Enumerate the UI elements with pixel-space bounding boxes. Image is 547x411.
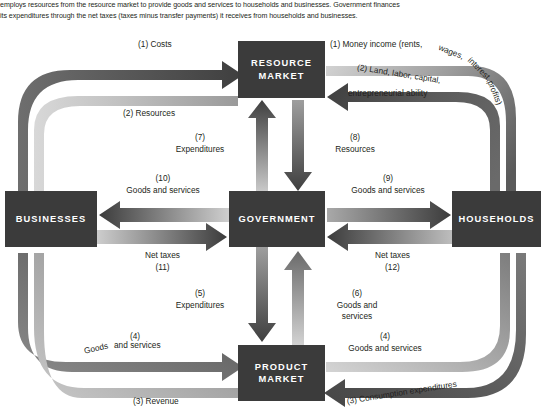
label-1-money-income-part1: (1) Money income (rents, <box>330 39 422 50</box>
label-11-net-taxes: Net taxes <box>115 250 210 261</box>
arrow-8-resources <box>284 100 312 191</box>
resource-market-line1: RESOURCE <box>251 58 312 68</box>
businesses-label: BUSINESSES <box>16 213 86 226</box>
label-2-land-labor-part2: entrepreneurial ability <box>348 88 427 99</box>
arrow-3-revenue <box>34 253 238 398</box>
label-6-number: (6) <box>322 288 392 299</box>
label-6-goods-line2: services <box>312 311 402 322</box>
label-11-number: (11) <box>115 262 210 273</box>
resource-market-line2: MARKET <box>258 71 304 81</box>
arrow-6-goods-and-services <box>284 251 312 345</box>
arrow-12-net-taxes <box>327 223 452 251</box>
households-label: HOUSEHOLDS <box>458 213 534 226</box>
label-4-right-number: (4) <box>350 331 420 342</box>
circular-flow-diagram: RESOURCE MARKET BUSINESSES GOVERNMENT HO… <box>0 22 547 411</box>
node-households[interactable]: HOUSEHOLDS <box>452 191 541 247</box>
node-resource-market[interactable]: RESOURCE MARKET <box>238 41 325 98</box>
product-market-line2: MARKET <box>258 374 304 384</box>
arrow-7-expenditures <box>248 100 276 191</box>
label-10-number: (10) <box>128 173 198 184</box>
label-4-right-label: Goods and services <box>330 343 440 354</box>
arrow-10-goods-and-services <box>99 201 229 229</box>
label-12-number: (12) <box>345 262 440 273</box>
label-9-number: (9) <box>353 173 423 184</box>
stub-businesses-top-in <box>10 165 38 191</box>
label-8-number: (8) <box>320 132 390 143</box>
label-2-resources: (2) Resources <box>123 108 175 119</box>
label-1-costs: (1) Costs <box>138 39 172 50</box>
label-7-expenditures: Expenditures <box>165 144 235 155</box>
caption-line-1: employs resources from the resource mark… <box>0 0 547 11</box>
label-7-number: (7) <box>165 132 235 143</box>
arrow-5-expenditures <box>248 247 276 342</box>
label-10-goods-and-services: Goods and services <box>108 185 218 196</box>
figure-caption: employs resources from the resource mark… <box>0 0 547 23</box>
label-5-number: (5) <box>165 288 235 299</box>
label-8-resources: Resources <box>320 144 390 155</box>
node-businesses[interactable]: BUSINESSES <box>5 191 97 247</box>
product-market-line1: PRODUCT <box>255 362 308 372</box>
label-6-goods-line1: Goods and <box>312 300 402 311</box>
label-12-net-taxes: Net taxes <box>345 250 440 261</box>
node-product-market[interactable]: PRODUCT MARKET <box>238 345 325 401</box>
label-9-goods-and-services: Goods and services <box>333 185 443 196</box>
node-government[interactable]: GOVERNMENT <box>229 191 325 247</box>
label-4-left-line2: and services <box>114 340 161 351</box>
label-3-revenue: (3) Revenue <box>133 396 179 407</box>
government-label: GOVERNMENT <box>238 213 315 226</box>
label-5-expenditures: Expenditures <box>160 300 240 311</box>
arrow-11-net-taxes <box>97 223 227 251</box>
